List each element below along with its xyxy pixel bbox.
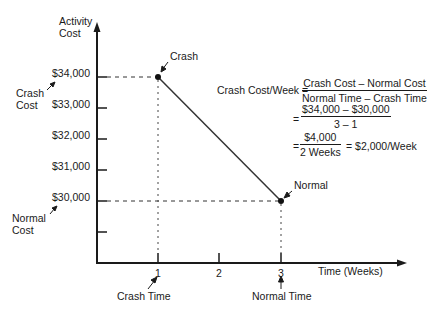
formula-fraction-1: Crash Cost – Normal Cost Normal Time – C… <box>302 77 427 104</box>
x-tick-label: 1 <box>152 267 164 279</box>
x-ticks <box>158 253 281 263</box>
formula-equals: = <box>293 140 299 152</box>
crash-point <box>155 74 161 80</box>
x-tick-label: 2 <box>213 267 225 279</box>
crash-time-label: Crash Time <box>117 290 171 302</box>
y-tick-label: $30,000 <box>30 191 90 203</box>
formula-equals: = <box>293 113 299 125</box>
x-axis-arrow-icon <box>397 260 407 267</box>
formula-lhs: Crash Cost/Week = <box>217 84 308 96</box>
y-axis-arrow-icon <box>94 22 101 32</box>
y-tick-label: $34,000 <box>30 67 90 79</box>
y-tick-label: $32,000 <box>30 129 90 141</box>
normal-point-label: Normal <box>294 179 328 191</box>
formula-fraction-2: $34,000 – $30,000 3 – 1 <box>301 103 391 130</box>
formula-result: = $2,000/Week <box>346 140 417 152</box>
crash-point-label: Crash <box>170 50 198 62</box>
vertical-guides <box>158 80 281 253</box>
normal-time-label: Normal Time <box>252 290 312 302</box>
y-tick-label: $31,000 <box>30 160 90 172</box>
normal-cost-label: Normal Cost <box>12 212 46 236</box>
y-axis-title: Activity Cost <box>59 15 92 39</box>
formula-fraction-3: $4,000 2 Weeks <box>300 131 341 158</box>
normal-point <box>278 198 284 204</box>
x-tick-label: 3 <box>275 267 287 279</box>
x-axis-title: Time (Weeks) <box>318 265 383 277</box>
crash-cost-label: Crash Cost <box>16 87 44 111</box>
y-ticks <box>97 77 107 232</box>
